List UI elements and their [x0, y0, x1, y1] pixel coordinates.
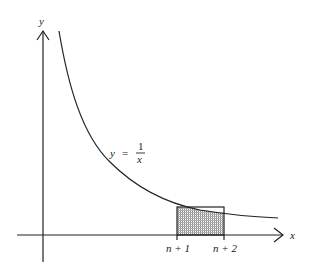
function-numerator: 1	[138, 140, 144, 152]
x-axis	[17, 228, 283, 242]
function-label: y = 1 x	[109, 140, 145, 165]
x-axis-label: x	[289, 229, 295, 241]
tick-label-n-plus-2: n + 2	[213, 242, 237, 254]
function-equals: =	[122, 147, 128, 159]
y-axis-label: y	[38, 15, 44, 27]
y-axis	[37, 31, 49, 262]
tick-label-n-plus-1: n + 1	[166, 242, 190, 254]
shaded-area	[177, 200, 224, 235]
diagram-canvas: y x n + 1 n + 2 y = 1 x	[0, 0, 312, 276]
function-denominator: x	[136, 153, 142, 165]
function-lhs: y	[109, 147, 115, 159]
curve-one-over-x	[59, 31, 278, 218]
